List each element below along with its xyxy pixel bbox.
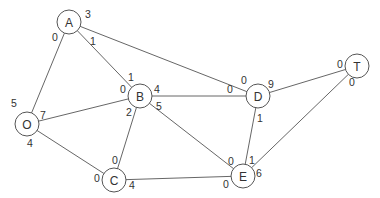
node-label: C: [110, 174, 119, 188]
edge-label-b-e-to: 0: [228, 155, 234, 167]
edge-o-a: [27, 22, 69, 124]
edge-label-o-b-from: 7: [40, 109, 46, 121]
edge-label-d-t-from: 9: [268, 78, 274, 90]
edge-a-b: [69, 22, 140, 96]
node-c: C: [102, 168, 126, 192]
edge-label-a-b-to: 1: [128, 71, 134, 83]
edge-labels-layer: 507040113040205040119060: [11, 8, 355, 191]
nodes-layer: AOBDTCE: [15, 10, 369, 192]
edge-label-c-e-from: 4: [129, 179, 135, 191]
edge-label-b-d-from: 4: [154, 83, 160, 95]
node-label: D: [254, 90, 263, 104]
node-t: T: [345, 54, 369, 78]
edge-label-e-t-from: 6: [256, 167, 262, 179]
edge-label-o-a-from: 5: [11, 97, 17, 109]
node-label: O: [22, 118, 31, 132]
node-b: B: [128, 84, 152, 108]
graph-svg: 507040113040205040119060 AOBDTCE: [0, 0, 380, 198]
edge-label-b-c-from: 2: [126, 106, 132, 118]
edge-label-d-t-to: 0: [337, 58, 343, 70]
edge-o-c: [27, 124, 114, 180]
edge-label-o-a-to: 0: [52, 31, 58, 43]
node-label: B: [136, 90, 144, 104]
edge-label-d-e-from: 1: [257, 112, 263, 124]
edge-label-b-d-to: 0: [227, 83, 233, 95]
edge-label-a-d-from: 3: [85, 8, 91, 20]
node-label: A: [65, 16, 73, 30]
edge-label-o-c-to: 0: [94, 172, 100, 184]
network-graph: 507040113040205040119060 AOBDTCE: [0, 0, 380, 198]
node-label: E: [239, 170, 247, 184]
edge-label-b-e-from: 5: [156, 100, 162, 112]
edges-layer: [27, 22, 357, 180]
node-label: T: [353, 60, 361, 74]
node-d: D: [246, 84, 270, 108]
edge-label-a-d-to: 0: [241, 74, 247, 86]
edge-label-a-b-from: 1: [90, 35, 96, 47]
edge-label-o-c-from: 4: [27, 137, 33, 149]
edge-label-o-b-to: 0: [120, 83, 126, 95]
edge-label-d-e-to: 1: [249, 154, 255, 166]
node-a: A: [57, 10, 81, 34]
node-e: E: [231, 164, 255, 188]
node-o: O: [15, 112, 39, 136]
edge-label-b-c-to: 0: [112, 154, 118, 166]
edge-label-c-e-to: 0: [223, 178, 229, 190]
